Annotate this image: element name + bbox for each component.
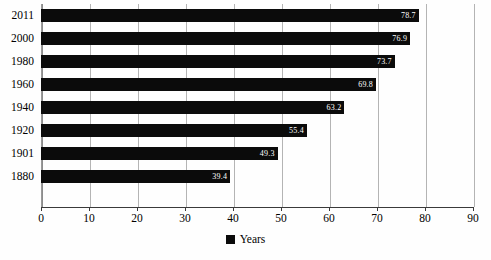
x-tick-label-0: 0 [21, 212, 61, 224]
x-tick-50 [281, 207, 282, 211]
gridline-90 [474, 4, 475, 207]
x-tick-90 [473, 207, 474, 211]
x-tick-10 [89, 207, 90, 211]
legend-label-years: Years [240, 234, 266, 245]
category-label-1980: 1980 [11, 50, 34, 73]
x-tick-70 [377, 207, 378, 211]
category-label-1920: 1920 [11, 119, 34, 142]
bar-value-label-1901: 49.3 [41, 147, 278, 160]
bar-row: 63.2 [41, 96, 473, 119]
bar-row: 55.4 [41, 119, 473, 142]
bar-value-label-1940: 63.2 [41, 101, 344, 114]
x-tick-40 [233, 207, 234, 211]
bar-value-label-2000: 76.9 [41, 32, 410, 45]
bar-value-label-2011: 78.7 [41, 9, 419, 22]
category-label-1880: 1880 [11, 165, 34, 188]
bar-row: 76.9 [41, 27, 473, 50]
x-tick-label-20: 20 [117, 212, 157, 224]
category-label-1901: 1901 [11, 142, 34, 165]
chart-legend: Years [0, 234, 491, 245]
x-tick-label-90: 90 [453, 212, 491, 224]
x-tick-label-10: 10 [69, 212, 109, 224]
bar-value-label-1880: 39.4 [41, 170, 230, 183]
x-tick-60 [329, 207, 330, 211]
x-tick-80 [425, 207, 426, 211]
category-label-1960: 1960 [11, 73, 34, 96]
bar-value-label-1980: 73.7 [41, 55, 395, 68]
x-axis-line [41, 207, 473, 208]
category-label-2011: 2011 [11, 4, 34, 27]
bar-row: 49.3 [41, 142, 473, 165]
x-tick-label-30: 30 [165, 212, 205, 224]
legend-swatch-years [226, 235, 235, 244]
bars-layer: 78.776.973.769.863.255.449.339.4 [41, 4, 473, 207]
bar-row: 39.4 [41, 165, 473, 188]
x-tick-20 [137, 207, 138, 211]
category-axis-labels: 20112000198019601940192019011880 [0, 4, 38, 207]
category-label-1940: 1940 [11, 96, 34, 119]
x-tick-label-40: 40 [213, 212, 253, 224]
bar-row: 78.7 [41, 4, 473, 27]
bar-value-label-1920: 55.4 [41, 124, 307, 137]
x-tick-label-80: 80 [405, 212, 445, 224]
x-tick-label-50: 50 [261, 212, 301, 224]
x-tick-label-70: 70 [357, 212, 397, 224]
bar-chart: 78.776.973.769.863.255.449.339.4 2011200… [0, 0, 491, 260]
x-tick-0 [41, 207, 42, 211]
bar-value-label-1960: 69.8 [41, 78, 376, 91]
bar-row: 69.8 [41, 73, 473, 96]
x-tick-30 [185, 207, 186, 211]
bar-row: 73.7 [41, 50, 473, 73]
x-tick-label-60: 60 [309, 212, 349, 224]
category-label-2000: 2000 [11, 27, 34, 50]
